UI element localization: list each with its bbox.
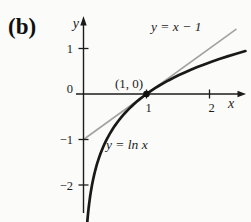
y-tick-label: 1 — [67, 42, 73, 56]
curve-equation-label: y = ln x — [104, 137, 148, 152]
y-axis-arrow-icon — [80, 16, 86, 26]
x-axis — [76, 91, 246, 97]
origin-label: 0 — [67, 82, 73, 96]
x-tick-label: 1 — [145, 101, 151, 115]
y-axis — [80, 16, 86, 213]
panel-label: (b) — [8, 14, 36, 39]
y-tick-label: −2 — [60, 179, 73, 193]
y-axis-label: y — [71, 16, 80, 31]
x-axis-arrow-icon — [238, 91, 247, 97]
x-tick-label: 2 — [208, 101, 214, 115]
figure-panel: (b) 1−1−212 y x 0 y = x − 1 (1, 0) y = l… — [0, 0, 251, 222]
y-tick-label: −1 — [60, 133, 73, 147]
tangency-point-dot — [143, 91, 150, 98]
x-axis-label: x — [227, 96, 235, 111]
tangent-line-equation-label: y = x − 1 — [149, 19, 201, 34]
plot-svg: (b) 1−1−212 y x 0 y = x − 1 (1, 0) y = l… — [0, 0, 251, 222]
tangency-point-label: (1, 0) — [115, 76, 143, 91]
